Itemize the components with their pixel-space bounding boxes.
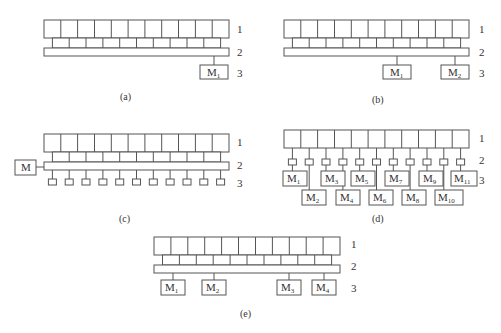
- module-m9: M9: [419, 171, 443, 186]
- panel-e: M1 M2 M3 M4 1 2 3 (e): [154, 237, 357, 320]
- modules: M1 M2 M3 M4 M5 M6 M7 M8 M9 M10 M11: [283, 171, 477, 205]
- side-module-m: M: [15, 160, 36, 175]
- bus-bar: [44, 48, 229, 56]
- row-2-connectors: [292, 38, 460, 48]
- small-units: [48, 170, 224, 185]
- row-2-connectors: [52, 152, 220, 162]
- module-m1: M1: [161, 280, 185, 295]
- row-1-cells: [154, 237, 340, 255]
- module-m7: M7: [385, 171, 409, 186]
- bus-bar: [44, 162, 229, 170]
- row-label-3: 3: [237, 67, 243, 79]
- module-m1: M1: [200, 65, 228, 80]
- caption-b: (b): [372, 94, 384, 106]
- panel-c: M 1 2 3 (c): [15, 134, 243, 225]
- module-m1: M1: [283, 171, 307, 186]
- caption-c: (c): [119, 213, 130, 225]
- module-m4: M4: [312, 280, 336, 295]
- panel-a: M1 1 2 3 (a): [44, 20, 243, 103]
- row-label-1: 1: [351, 238, 357, 250]
- row-label-2: 2: [479, 46, 485, 58]
- module-m1: M1: [383, 65, 411, 80]
- row-label-3: 3: [237, 177, 243, 189]
- bus-bar: [284, 48, 469, 56]
- caption-a: (a): [120, 91, 131, 103]
- row-2-connectors: [163, 255, 332, 265]
- row-label-1: 1: [237, 136, 243, 148]
- row-2-connectors: [52, 38, 220, 48]
- row-label-2: 2: [237, 159, 243, 171]
- module-m10: M10: [435, 190, 463, 205]
- panel-d: M1 M2 M3 M4 M5 M6 M7 M8 M9 M10 M11 1 2 3…: [283, 130, 485, 225]
- module-m6: M6: [369, 190, 393, 205]
- module-m2: M2: [202, 280, 226, 295]
- module-m5: M5: [351, 171, 375, 186]
- bus-bar: [154, 265, 340, 273]
- module-m3: M3: [277, 280, 301, 295]
- row-label-3: 3: [479, 174, 485, 186]
- module-m3: M3: [321, 171, 345, 186]
- panel-b: M1 M2 1 2 3 (b): [284, 20, 485, 106]
- module-m8: M8: [402, 190, 426, 205]
- row-1-cells: [44, 134, 229, 152]
- module-m4: M4: [336, 190, 360, 205]
- module-m2: M2: [441, 65, 469, 80]
- row-label-1: 1: [479, 23, 485, 35]
- row-1-cells: [284, 20, 469, 38]
- module-m11: M11: [451, 171, 477, 186]
- row-1-cells: [44, 20, 229, 38]
- row-label-2: 2: [237, 46, 243, 58]
- row-label-2: 2: [479, 154, 485, 166]
- row-1-cells: [284, 130, 469, 148]
- row-label-3: 3: [479, 67, 485, 79]
- row-label-2: 2: [351, 260, 357, 272]
- svg-text:M: M: [21, 161, 31, 173]
- row-label-1: 1: [237, 23, 243, 35]
- caption-d: (d): [372, 213, 384, 225]
- module-m2: M2: [302, 190, 326, 205]
- caption-e: (e): [240, 308, 251, 320]
- row-label-3: 3: [351, 282, 357, 294]
- diagram-canvas: M1 1 2 3 (a): [0, 0, 501, 333]
- row-label-1: 1: [479, 132, 485, 144]
